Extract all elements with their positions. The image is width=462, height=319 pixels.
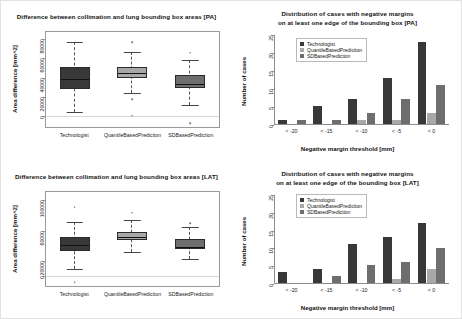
median-line	[61, 245, 89, 246]
y-tick-mark	[42, 58, 45, 59]
box-iqr	[60, 237, 90, 251]
x-tick-label: < 0	[428, 287, 435, 293]
legend-swatch	[300, 42, 304, 46]
x-tick-label: Technologist	[60, 132, 89, 138]
bars-pa-xlabel: Negative margin threshold [mm]	[232, 145, 462, 152]
whisker-cap	[124, 252, 140, 253]
median-line	[176, 84, 204, 85]
y-tick-label: 60000	[39, 231, 45, 245]
whisker-cap	[182, 259, 198, 260]
whisker-cap	[124, 93, 140, 94]
median-line	[118, 237, 146, 238]
boxplot-pa-title: Difference between collimation and lung …	[1, 13, 232, 22]
legend-label: Technologist	[307, 42, 335, 47]
bar	[348, 244, 357, 283]
x-tick-label: < -5	[392, 128, 401, 134]
bar	[367, 113, 376, 124]
box-iqr	[117, 67, 147, 77]
x-tick-label: < -20	[286, 287, 298, 293]
x-tick-label: < -15	[321, 128, 333, 134]
outlier-point	[189, 52, 191, 54]
y-tick-mark	[271, 89, 274, 90]
figure-page: Difference between collimation and lung …	[0, 0, 462, 319]
y-tick-label: 60000	[39, 58, 45, 72]
legend-item: SDBasedPrediction	[300, 54, 362, 59]
bars-lat-title-line1: Distribution of cases with negative marg…	[240, 170, 455, 179]
legend-item: SDBasedPrediction	[300, 210, 362, 215]
bar	[357, 120, 366, 124]
bar	[367, 265, 376, 283]
whisker-cap	[67, 112, 83, 113]
y-tick-mark	[271, 231, 274, 232]
y-tick-mark	[42, 276, 45, 277]
y-tick-label: 20000	[39, 97, 45, 111]
y-tick-mark	[271, 213, 274, 214]
legend-swatch	[300, 204, 304, 208]
y-tick-label: 20000	[39, 261, 45, 275]
outlier-point	[132, 41, 134, 43]
y-tick-mark	[42, 231, 45, 232]
bars-pa-ylabel: Number of cases	[240, 57, 247, 106]
bar	[427, 269, 436, 283]
boxplot-pa-ylabel: Area difference [mm^2]	[11, 45, 18, 113]
y-tick-mark	[271, 195, 274, 196]
bar	[383, 237, 392, 283]
bar	[278, 272, 287, 283]
y-tick-mark	[42, 97, 45, 98]
boxplot-group	[104, 192, 162, 286]
legend-item: QuantileBasedPrediction	[300, 48, 362, 53]
median-line	[176, 247, 204, 248]
legend-label: SDBasedPrediction	[307, 210, 350, 215]
bars-lat-legend: TechnologistQuantileBasedPredictionSDBas…	[296, 194, 367, 218]
bar	[313, 269, 322, 283]
outlier-point	[132, 115, 134, 117]
y-tick-mark	[42, 200, 45, 201]
boxplot-group	[161, 192, 219, 286]
bar	[436, 248, 445, 283]
whisker-cap	[182, 227, 198, 228]
whisker-cap	[182, 60, 198, 61]
boxplot-pa-axes	[45, 31, 220, 128]
whisker-cap	[124, 52, 140, 53]
y-tick-label: 80000	[39, 39, 45, 53]
legend-label: SDBasedPrediction	[307, 54, 350, 59]
x-tick-label: < -10	[356, 128, 368, 134]
bar	[418, 223, 427, 283]
bars-lat-xlabel: Negative margin threshold [mm]	[232, 304, 462, 311]
legend-swatch	[300, 198, 304, 202]
outlier-point	[189, 122, 191, 124]
outlier-point	[74, 281, 76, 283]
y-tick-mark	[271, 266, 274, 267]
bar	[383, 78, 392, 124]
bar	[392, 279, 401, 283]
whisker-cap	[67, 269, 83, 270]
bar	[418, 42, 427, 124]
boxplot-lat-ylabel: Area difference [mm^2]	[11, 205, 18, 273]
y-tick-mark	[42, 39, 45, 40]
y-tick-mark	[271, 71, 274, 72]
legend-label: Technologist	[307, 198, 335, 203]
boxplot-group	[46, 32, 104, 127]
boxplot-lat-title: Difference between collimation and lung …	[1, 173, 232, 182]
bars-pa-title-line2: on at least one edge of the bounding box…	[240, 19, 455, 28]
y-tick-mark	[271, 284, 274, 285]
bar	[348, 99, 357, 124]
whisker-cap	[67, 222, 83, 223]
bar	[392, 120, 401, 124]
boxplot-group	[46, 192, 104, 286]
legend-label: QuantileBasedPrediction	[307, 204, 362, 209]
bar	[332, 276, 341, 283]
legend-swatch	[300, 54, 304, 58]
box-iqr	[117, 232, 147, 240]
bars-pa-title-line1: Distribution of cases with negative marg…	[240, 10, 455, 19]
bar	[313, 106, 322, 124]
bars-lat-title: Distribution of cases with negative marg…	[232, 170, 462, 187]
y-tick-mark	[42, 78, 45, 79]
y-tick-mark	[271, 248, 274, 249]
whisker-cap	[124, 220, 140, 221]
boxplot-group	[161, 32, 219, 127]
bar	[278, 120, 287, 124]
y-tick-mark	[271, 107, 274, 108]
boxplot-group	[104, 32, 162, 127]
median-line	[61, 79, 89, 80]
